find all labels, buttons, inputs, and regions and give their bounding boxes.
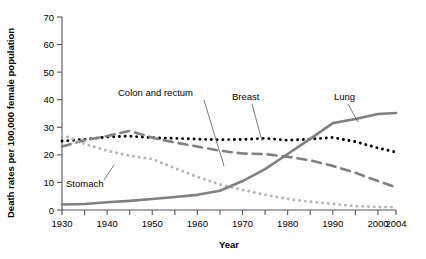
series-group [62, 113, 396, 207]
x-tick-label: 1940 [97, 218, 118, 229]
x-axis-title: Year [219, 239, 239, 250]
y-tick-label: 0 [49, 205, 54, 216]
y-tick-label: 40 [43, 94, 54, 105]
y-tick-label: 10 [43, 177, 54, 188]
y-tick-label: 20 [43, 149, 54, 160]
x-tick-label: 1980 [277, 218, 298, 229]
y-tick-label: 60 [43, 39, 54, 50]
annotation-leader-line [252, 104, 262, 141]
x-tick-label: 1970 [232, 218, 253, 229]
x-tick-label: 1930 [51, 218, 72, 229]
x-tick-label: 1990 [322, 218, 343, 229]
series-line-breast [62, 136, 396, 152]
y-tick-label: 50 [43, 67, 54, 78]
x-tick-label: 1960 [187, 218, 208, 229]
x-axis-tick-group: 193019401950196019701980199020002004 [51, 210, 406, 229]
line-chart: Death rates per 100,000 female populatio… [0, 0, 426, 259]
y-axis-title: Death rates per 100,000 female populatio… [5, 28, 16, 218]
annotation-label: Colon and rectum [118, 87, 193, 98]
annotation-leader-line [104, 165, 114, 180]
y-tick-label: 30 [43, 122, 54, 133]
y-axis-tick-group: 010203040506070 [43, 12, 62, 216]
x-tick-label: 1950 [142, 218, 163, 229]
annotation-label: Breast [232, 91, 260, 102]
series-line-lung [62, 113, 396, 205]
annotation-label: Stomach [66, 178, 104, 189]
x-tick-label: 2004 [385, 218, 406, 229]
annotation-leader-line [204, 100, 224, 166]
chart-svg: Death rates per 100,000 female populatio… [0, 0, 426, 259]
annotation-label: Lung [334, 91, 355, 102]
y-tick-label: 70 [43, 12, 54, 23]
